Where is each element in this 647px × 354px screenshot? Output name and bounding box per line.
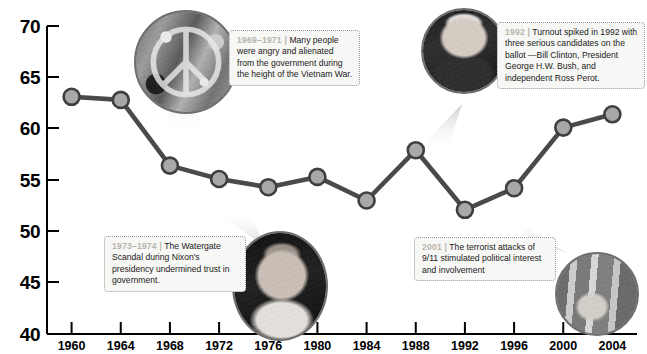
richard-nixon-photo xyxy=(234,233,326,339)
photo-bubble-vietnam xyxy=(134,10,238,114)
september-11-photo xyxy=(557,254,637,334)
data-point xyxy=(457,202,473,218)
x-tick-label: 2000 xyxy=(549,339,577,353)
x-tick-label: 1980 xyxy=(304,339,332,353)
data-point xyxy=(359,193,375,209)
x-axis xyxy=(47,322,637,334)
photo-grain xyxy=(557,254,637,334)
y-tick-label: 50 xyxy=(0,221,40,243)
x-tick-label: 1964 xyxy=(107,339,135,353)
x-tick-label: 2004 xyxy=(599,339,627,353)
photo-grain xyxy=(423,10,505,92)
x-tick-label: 1976 xyxy=(254,339,282,353)
callout-clinton: 1992 Turnout spiked in 1992 with three s… xyxy=(497,22,645,89)
y-tick-label: 70 xyxy=(0,16,40,38)
callout-year: 1992 xyxy=(505,27,530,37)
callout-911: 2001 The terrorist attacks of 9/11 stimu… xyxy=(414,237,556,281)
x-tick-label: 1972 xyxy=(205,339,233,353)
x-tick-label: 1988 xyxy=(402,339,430,353)
photo-bubble-nixon xyxy=(232,231,328,341)
photo-bubble-911 xyxy=(555,252,639,336)
y-tick-label: 45 xyxy=(0,272,40,294)
data-line xyxy=(72,97,613,210)
peace-sign-photo xyxy=(136,12,236,112)
connector-cone-clinton xyxy=(418,104,462,152)
data-point xyxy=(309,169,325,185)
bill-clinton-photo xyxy=(423,10,505,92)
data-point xyxy=(604,106,620,122)
x-tick-label: 1992 xyxy=(451,339,479,353)
y-tick-label: 55 xyxy=(0,170,40,192)
callout-vietnam: 1969–1971 Many people were angry and ali… xyxy=(229,30,360,86)
data-point xyxy=(408,142,424,158)
y-tick-label: 40 xyxy=(0,324,40,346)
y-axis xyxy=(47,26,59,334)
data-point xyxy=(162,158,178,174)
callout-watergate: 1973–1974 The Watergate Scandal during N… xyxy=(104,236,246,292)
data-point xyxy=(260,179,276,195)
callout-year: 1973–1974 xyxy=(112,241,162,251)
data-point xyxy=(64,89,80,105)
x-tick-label: 1968 xyxy=(156,339,184,353)
callout-year: 2001 xyxy=(422,242,447,252)
chart-figure: 70 65 60 55 50 45 40 1960196419681972197… xyxy=(0,0,647,354)
peace-sign-icon xyxy=(143,19,229,105)
data-point xyxy=(555,120,571,136)
x-tick-label: 1960 xyxy=(58,339,86,353)
x-tick-label: 1996 xyxy=(500,339,528,353)
x-tick-label: 1984 xyxy=(353,339,381,353)
data-point xyxy=(211,171,227,187)
y-tick-label: 65 xyxy=(0,67,40,89)
callout-year: 1969–1971 xyxy=(237,35,287,45)
data-point xyxy=(506,180,522,196)
data-point xyxy=(113,92,129,108)
y-tick-label: 60 xyxy=(0,118,40,140)
photo-grain xyxy=(234,233,326,339)
photo-bubble-clinton xyxy=(421,8,507,94)
